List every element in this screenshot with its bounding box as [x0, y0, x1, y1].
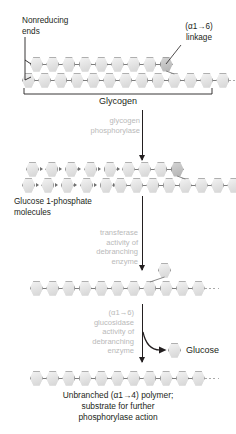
glucose-residue: [158, 263, 171, 278]
phosphate-marker: [94, 183, 97, 187]
enzyme-step-transferase: transferase activity of debranching enzy…: [46, 228, 138, 266]
glucose-residue: [22, 73, 35, 88]
glucose-residue: [87, 73, 100, 88]
glucose-residue: [192, 281, 205, 296]
glucose-residue: [95, 281, 108, 296]
glycogen-breakdown-diagram: Nonreducing ends (α1→6) linkage Glycogen…: [0, 0, 236, 434]
glucose-residue: [111, 281, 124, 296]
phosphate-marker: [59, 167, 62, 171]
glucose-residue: [54, 73, 67, 88]
glucose-residue: [30, 57, 43, 72]
glycogen-main-chain: [22, 73, 233, 89]
glucose-residue: [168, 73, 181, 88]
bottom-caption: Unbranched (α1→4) polymer; substrate for…: [28, 390, 208, 423]
glucose-residue: [22, 178, 35, 193]
phosphate-marker: [55, 183, 58, 187]
glucose-residue: [79, 371, 92, 386]
glucose-residue: [176, 281, 189, 296]
glucose-residue: [211, 178, 224, 193]
released-g1p-upper-row: [26, 162, 123, 178]
glucose-residue: [143, 57, 156, 72]
glucose-residue: [111, 57, 124, 72]
glucose-residue: [130, 178, 143, 193]
glucose-residue: [122, 162, 135, 177]
glucose-residue: [41, 178, 54, 193]
alpha-1-6-linkage-label: (α1→6) linkage: [166, 22, 232, 43]
residual-branch-glucose: [158, 263, 174, 279]
phosphate-marker: [40, 167, 43, 171]
glucose-residue: [103, 73, 116, 88]
glucose-hexagon: [168, 343, 181, 358]
glucose-residue: [143, 371, 156, 386]
glucose-residue: [127, 371, 140, 386]
glucose-residue: [26, 162, 39, 177]
glucose-residue: [95, 57, 108, 72]
glucose-residue: [38, 73, 51, 88]
glucose-residue: [111, 371, 124, 386]
glucose-residue: [138, 162, 151, 177]
glucose-residue: [160, 281, 173, 296]
glucose-residue: [192, 371, 205, 386]
glucose-residue: [80, 178, 93, 193]
chain-continuation: [229, 80, 236, 81]
glucose-residue: [100, 178, 113, 193]
enzyme-step-glucosidase: (α1→6) glucosidase activity of debranchi…: [42, 308, 134, 356]
glucose-residue: [163, 178, 176, 193]
arrow-glucosidase: [142, 304, 143, 362]
phosphate-marker: [78, 167, 81, 171]
glucose-residue: [71, 73, 84, 88]
glucose-residue: [104, 162, 117, 177]
glucose-residue: [46, 281, 59, 296]
glucose-label: Glucose: [186, 345, 219, 356]
glucose-residue: [184, 73, 197, 88]
glucose-residue: [79, 281, 92, 296]
glucose-residue: [65, 162, 78, 177]
glucose-residue: [146, 178, 159, 193]
glucose-residue: [143, 281, 156, 296]
released-g1p-lower-row: [22, 178, 119, 194]
limit-dextrin-branch-chain: [122, 162, 187, 178]
glucose-residue: [127, 57, 140, 72]
glucose-residue: [46, 57, 59, 72]
glucose-residue: [127, 281, 140, 296]
glucose-residue: [152, 73, 165, 88]
arrow-phosphorylase: [142, 110, 143, 160]
transferred-main-chain: [30, 281, 208, 297]
glucose-residue: [62, 57, 75, 72]
glucose-residue: [171, 162, 184, 177]
glucose-residue: [154, 162, 167, 177]
glucose-residue: [95, 371, 108, 386]
nonreducing-ends-label: Nonreducing ends: [22, 16, 68, 37]
glucose-residue: [114, 178, 127, 193]
glucose-residue: [176, 371, 189, 386]
glucose-residue: [227, 178, 236, 193]
glucose-residue: [135, 73, 148, 88]
glycogen-label: Glycogen: [78, 96, 158, 107]
glucose-residue: [216, 73, 229, 88]
glycogen-branch-chain: [30, 57, 176, 73]
glucose-residue: [79, 57, 92, 72]
chain-continuation: [205, 288, 219, 289]
glucose-residue: [45, 162, 58, 177]
enzyme-step-phosphorylase: glycogen phosphorylase: [48, 116, 140, 135]
glucose-residue: [179, 178, 192, 193]
unbranched-polymer-chain: [30, 371, 208, 387]
glucose-residue: [200, 73, 213, 88]
glucose-residue: [160, 57, 173, 72]
glucose-residue: [160, 371, 173, 386]
glucose-residue: [30, 371, 43, 386]
glucose-residue: [62, 371, 75, 386]
chain-continuation: [205, 378, 219, 379]
glucose-residue: [46, 371, 59, 386]
glucose-residue: [84, 162, 97, 177]
phosphate-marker: [74, 183, 77, 187]
glucose-residue: [30, 281, 43, 296]
phosphate-marker: [98, 167, 101, 171]
phosphate-marker: [36, 183, 39, 187]
glucose-residue: [62, 281, 75, 296]
glucose-residue: [61, 178, 74, 193]
arrow-transferase: [142, 196, 143, 270]
limit-dextrin-main-chain: [114, 178, 236, 194]
glucose-residue: [119, 73, 132, 88]
phosphate-marker: [117, 167, 120, 171]
